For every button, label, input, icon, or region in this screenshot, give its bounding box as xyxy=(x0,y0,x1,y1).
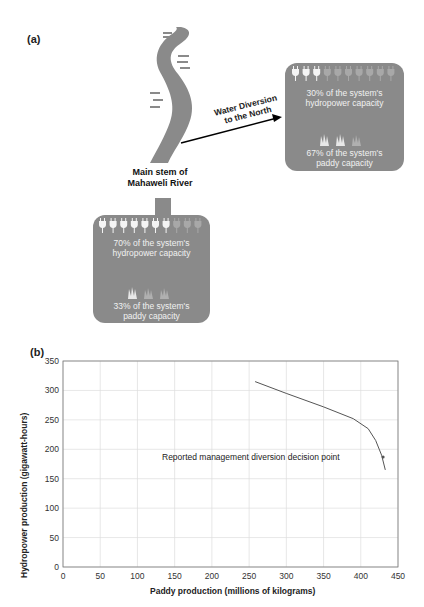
y-tick-label: 250 xyxy=(45,415,59,425)
y-tick-label: 50 xyxy=(50,533,60,543)
axis-ticks: 0501001502002503003504004500501001502002… xyxy=(45,356,406,581)
y-tick-label: 150 xyxy=(45,474,59,484)
y-axis-title: Hydropower production (gigawatt-hours) xyxy=(19,413,29,578)
x-tick-label: 100 xyxy=(130,571,144,581)
y-tick-label: 350 xyxy=(45,356,59,366)
x-tick-label: 150 xyxy=(168,571,182,581)
tradeoff-chart: 0501001502002503003504004500501001502002… xyxy=(0,0,424,607)
y-tick-label: 0 xyxy=(54,562,59,572)
chart-grid xyxy=(63,361,398,567)
x-tick-label: 350 xyxy=(316,571,330,581)
x-tick-label: 450 xyxy=(391,571,405,581)
x-tick-label: 50 xyxy=(95,571,105,581)
x-tick-label: 250 xyxy=(242,571,256,581)
decision-point-marker xyxy=(382,455,385,458)
x-tick-label: 300 xyxy=(279,571,293,581)
y-tick-label: 100 xyxy=(45,503,59,513)
y-tick-label: 200 xyxy=(45,444,59,454)
decision-point-annotation: Reported management diversion decision p… xyxy=(162,452,340,462)
x-tick-label: 200 xyxy=(205,571,219,581)
x-tick-label: 0 xyxy=(61,571,66,581)
x-axis-title: Paddy production (millions of kilograms) xyxy=(150,586,315,596)
y-tick-label: 300 xyxy=(45,385,59,395)
x-tick-label: 400 xyxy=(354,571,368,581)
plot-frame xyxy=(63,361,398,567)
